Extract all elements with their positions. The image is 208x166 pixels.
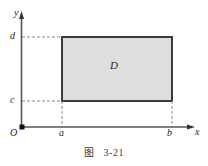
x-tick-label-b: b (167, 128, 172, 138)
figure-3-21: y x O d c a b D 图3-21 (0, 0, 208, 166)
y-tick-label-d: d (10, 31, 15, 41)
y-axis-label: y (14, 8, 18, 18)
figure-caption: 图3-21 (0, 144, 208, 159)
y-tick-label-c: c (10, 95, 14, 105)
origin-label: O (10, 128, 17, 138)
x-tick-label-a: a (59, 128, 64, 138)
y-axis-arrowhead (19, 11, 24, 19)
origin-point-marker (20, 125, 25, 130)
caption-number: 3-21 (104, 147, 124, 158)
coordinate-plot (0, 0, 208, 166)
region-label-d: D (110, 60, 118, 71)
x-axis-arrowhead (187, 125, 195, 130)
caption-prefix: 图 (84, 147, 95, 158)
x-axis-label: x (195, 127, 199, 137)
